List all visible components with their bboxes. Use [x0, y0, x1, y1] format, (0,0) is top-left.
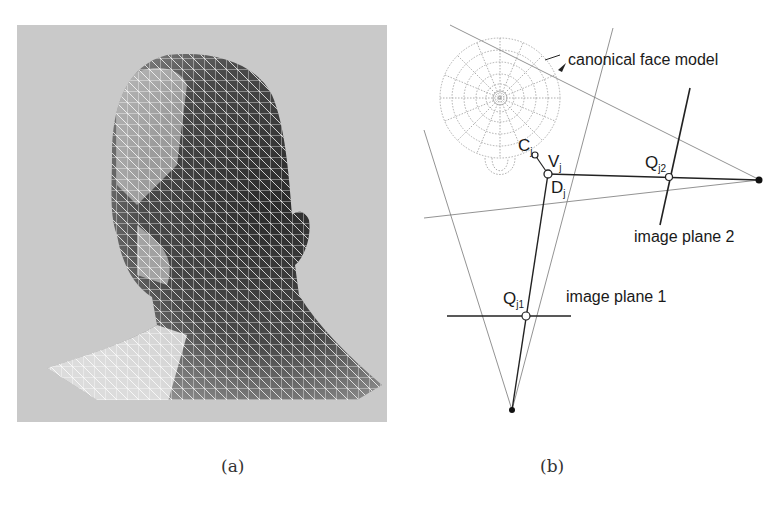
head-mesh-illustration	[17, 25, 387, 422]
q2-subscript: j2	[658, 163, 666, 174]
v-text: V	[548, 152, 559, 171]
point-d-label: Dj	[551, 178, 566, 199]
q1-text: Q	[503, 289, 516, 308]
caption-b: (b)	[540, 456, 564, 476]
point-c-label: Cj	[518, 136, 533, 157]
point-v-label: Vj	[548, 152, 562, 173]
q1-subscript: j1	[516, 299, 524, 310]
caption-a: (a)	[221, 456, 244, 476]
geometry-diagram: canonical face model Cj Vj Dj Qj2 Qj1 im…	[400, 0, 777, 440]
c-subscript: j	[530, 146, 532, 157]
point-q2-label: Qj2	[645, 153, 666, 174]
canonical-face-model-mesh	[440, 38, 560, 175]
v-subscript: j	[559, 162, 561, 173]
d-text: D	[551, 178, 563, 197]
canonical-face-model-label: canonical face model	[568, 51, 718, 69]
point-q1-label: Qj1	[503, 289, 524, 310]
image-plane-1-label: image plane 1	[566, 288, 667, 306]
wireframe-head-image	[17, 25, 387, 422]
d-subscript: j	[563, 188, 565, 199]
q2-text: Q	[645, 153, 658, 172]
image-plane-2-label: image plane 2	[634, 228, 735, 246]
c-text: C	[518, 136, 530, 155]
